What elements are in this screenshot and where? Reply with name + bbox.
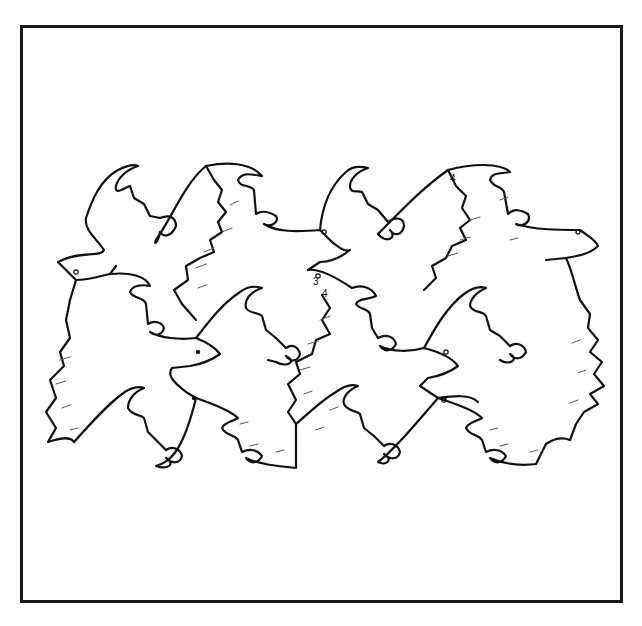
creature-bot-2 [196, 398, 296, 468]
creature-mid-3: 3 4 [288, 270, 424, 424]
tessellation-drawing: 4 3 4 [0, 0, 642, 626]
vertex-label-4: 4 [322, 288, 328, 299]
creature-top-3 [320, 167, 448, 239]
vertex-label-4-top: 4 [450, 173, 456, 184]
creature-mid-2 [170, 287, 300, 398]
eye-markers [74, 230, 580, 402]
creature-bot-4 [438, 398, 546, 465]
creature-mid-1 [46, 274, 196, 443]
creature-bot-1 [74, 387, 196, 467]
creature-top-1 [58, 165, 206, 280]
creature-bot-3 [296, 385, 438, 463]
